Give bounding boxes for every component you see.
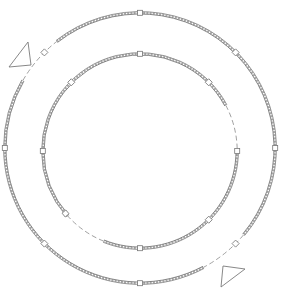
- inner-ring-joint-marker: [138, 246, 143, 251]
- ring-diagram: [0, 0, 281, 293]
- inner-ring-joint-marker: [205, 216, 212, 223]
- outer-ring-joint-marker: [138, 10, 143, 15]
- direction-marker-bottom-right-icon: [221, 266, 245, 287]
- inner-ring-hatch-band: [104, 151, 238, 248]
- inner-ring: [40, 51, 239, 250]
- outer-ring-inner-edge: [58, 14, 274, 234]
- outer-ring-hatch-band: [5, 148, 204, 283]
- inner-ring-outer-edge: [42, 151, 67, 217]
- inner-ring-gap-dashed: [226, 105, 237, 151]
- outer-ring-hatch-band: [57, 13, 275, 235]
- outer-ring-joint-marker: [41, 240, 48, 247]
- outer-ring-gap-dashed: [203, 235, 243, 267]
- inner-ring-outer-edge: [42, 53, 227, 151]
- inner-ring-outer-edge: [103, 151, 238, 249]
- outer-ring-joint-marker: [41, 49, 48, 56]
- direction-marker-top-left-icon: [9, 42, 31, 67]
- outer-ring-joint-marker: [138, 281, 143, 286]
- outer-ring-inner-edge: [6, 148, 203, 282]
- inner-ring-joint-marker: [138, 51, 143, 56]
- inner-ring-joint-marker: [235, 149, 240, 154]
- inner-ring-inner-edge: [44, 55, 225, 151]
- inner-ring-hatch-band: [43, 54, 226, 151]
- direction-markers: [9, 42, 245, 287]
- outer-ring-gap-dashed: [23, 41, 57, 80]
- outer-ring-outer-edge: [56, 12, 276, 236]
- inner-ring-inner-edge: [104, 151, 236, 247]
- inner-ring-joint-marker: [68, 79, 75, 86]
- inner-ring-gap-dashed: [68, 216, 104, 241]
- outer-ring-outer-edge: [4, 148, 204, 284]
- outer-ring-joint-marker: [2, 146, 7, 151]
- inner-ring-joint-marker: [40, 149, 45, 154]
- outer-ring-joint-marker: [273, 146, 278, 151]
